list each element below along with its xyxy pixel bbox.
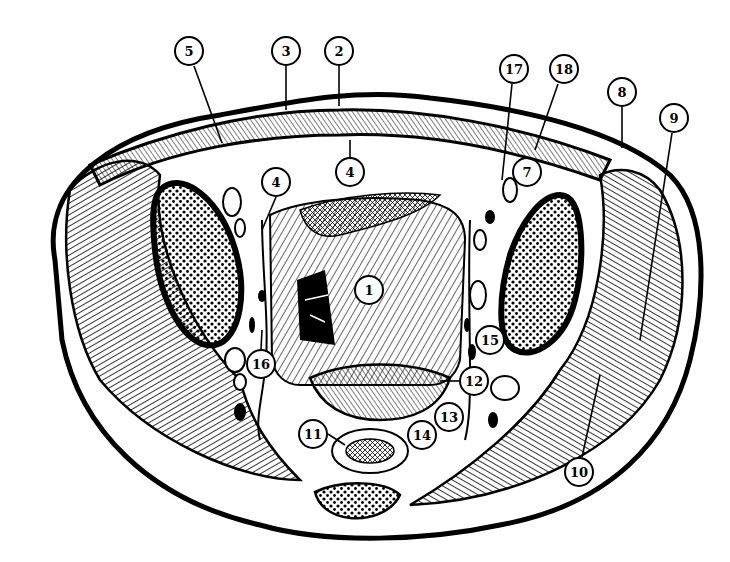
label-13: 13 <box>434 402 464 432</box>
label-11: 11 <box>298 419 328 449</box>
label-15: 15 <box>475 325 505 355</box>
label-4-center: 4 <box>335 157 365 187</box>
label-10: 10 <box>564 457 594 487</box>
label-4-left: 4 <box>261 167 291 197</box>
label-5: 5 <box>174 36 204 66</box>
label-18: 18 <box>549 54 579 84</box>
label-17: 17 <box>499 54 529 84</box>
label-14: 14 <box>407 420 437 450</box>
label-1: 1 <box>354 275 384 305</box>
pelvis-cross-section-diagram: 1 2 3 4 4 5 7 8 9 10 11 12 13 14 15 16 1… <box>0 0 730 562</box>
label-7: 7 <box>512 157 542 187</box>
label-12: 12 <box>459 366 489 396</box>
label-16: 16 <box>246 349 276 379</box>
label-9: 9 <box>659 103 689 133</box>
label-8: 8 <box>607 77 637 107</box>
label-3: 3 <box>271 36 301 66</box>
label-2: 2 <box>324 36 354 66</box>
